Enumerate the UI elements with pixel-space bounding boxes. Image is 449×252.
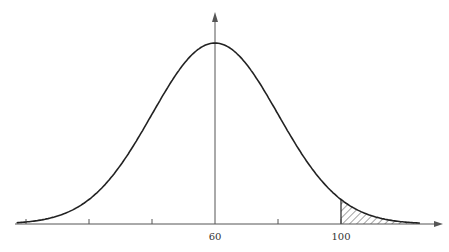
x-axis-ticks	[26, 219, 341, 224]
x-tick-label: 100	[331, 231, 350, 242]
normal-distribution-diagram: 60100	[0, 0, 449, 252]
shaded-tail-region	[341, 200, 420, 225]
y-axis-arrow-icon	[212, 12, 218, 22]
bell-curve	[17, 43, 420, 223]
x-tick-label: 60	[209, 231, 222, 242]
x-axis-labels: 60100	[209, 231, 351, 242]
x-axis-arrow-icon	[434, 221, 443, 227]
